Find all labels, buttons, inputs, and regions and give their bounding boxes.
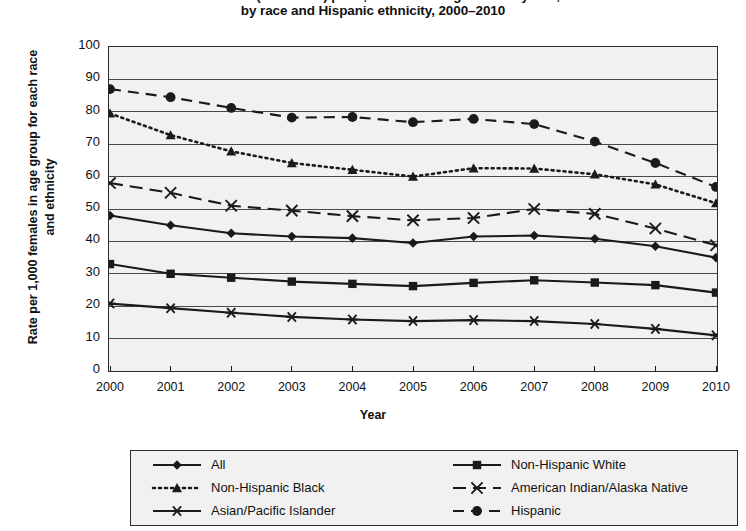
y-tick-100: 100 — [60, 37, 100, 52]
chart-legend: AllNon-Hispanic WhiteNon-Hispanic BlackA… — [130, 450, 738, 526]
legend-item-all[interactable]: All — [151, 457, 451, 473]
legend-item-hispanic[interactable]: Hispanic — [451, 503, 737, 519]
diamond-marker-icon — [151, 457, 203, 473]
legend-item-asian-pacific-islander[interactable]: Asian/Pacific Islander — [151, 503, 451, 519]
chart-title-line-2: by race and Hispanic ethnicity, 2000–201… — [0, 3, 746, 18]
plot-area — [108, 46, 718, 372]
asterisk-marker-icon — [151, 503, 203, 519]
circle-marker-icon — [451, 503, 503, 519]
legend-item-american-indian-alaska-native[interactable]: American Indian/Alaska Native — [451, 480, 737, 496]
x-tick-2004: 2004 — [325, 380, 379, 394]
legend-label: Asian/Pacific Islander — [211, 504, 335, 518]
cross-marker-icon — [451, 480, 503, 496]
y-axis-title: Rate per 1,000 females in age group for … — [25, 37, 59, 357]
x-tick-2007: 2007 — [507, 380, 561, 394]
x-tick-2008: 2008 — [568, 380, 622, 394]
legend-item-non-hispanic-black[interactable]: Non-Hispanic Black — [151, 480, 451, 496]
y-tick-60: 60 — [60, 167, 100, 182]
y-tick-20: 20 — [60, 296, 100, 311]
series-non-hispanic-white — [109, 260, 717, 297]
legend-label: Non-Hispanic White — [511, 458, 626, 472]
chart-page: Birth rates (live births) per 1,000 fema… — [0, 0, 746, 531]
legend-label: Non-Hispanic Black — [211, 481, 324, 495]
triangle-marker-icon — [151, 480, 203, 496]
y-tick-40: 40 — [60, 231, 100, 246]
y-tick-80: 80 — [60, 102, 100, 117]
plot-svg — [109, 47, 717, 371]
y-tick-0: 0 — [60, 361, 100, 376]
x-tick-2000: 2000 — [83, 380, 137, 394]
square-marker-icon — [451, 457, 503, 473]
legend-label: Hispanic — [511, 504, 561, 518]
y-tick-30: 30 — [60, 264, 100, 279]
x-tick-2010: 2010 — [689, 380, 743, 394]
x-tick-2005: 2005 — [386, 380, 440, 394]
x-tick-2001: 2001 — [144, 380, 198, 394]
x-tick-2003: 2003 — [265, 380, 319, 394]
chart-title: Birth rates (live births) per 1,000 fema… — [0, 0, 746, 18]
x-tick-2009: 2009 — [628, 380, 682, 394]
x-tick-2002: 2002 — [204, 380, 258, 394]
y-tick-10: 10 — [60, 329, 100, 344]
legend-item-non-hispanic-white[interactable]: Non-Hispanic White — [451, 457, 737, 473]
x-axis-title: Year — [0, 408, 746, 422]
series-all — [109, 211, 717, 263]
x-tick-2006: 2006 — [447, 380, 501, 394]
y-tick-70: 70 — [60, 134, 100, 149]
y-tick-50: 50 — [60, 199, 100, 214]
y-tick-90: 90 — [60, 69, 100, 84]
series-asian-pacific-islander — [109, 299, 717, 340]
legend-label: American Indian/Alaska Native — [511, 481, 688, 495]
legend-label: All — [211, 458, 225, 472]
